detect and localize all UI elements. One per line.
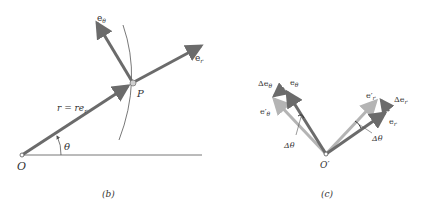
polar-unit-vectors-diagram: O P eθ er r = rer θ (b) Δeθ eθ e′θ Δθ e′…: [0, 0, 421, 209]
e-r-prime-label: e′r: [366, 91, 377, 101]
figure-b: O P eθ er r = rer θ (b): [17, 13, 204, 199]
angle-theta-label: θ: [64, 141, 70, 152]
e-theta-prime-label: e′θ: [260, 107, 271, 117]
point-p-label: P: [136, 88, 144, 99]
e-r-label: er: [195, 53, 204, 64]
e-theta-vector: [97, 23, 133, 83]
e-theta-label-c: eθ: [290, 78, 299, 88]
angle-theta-arc: [57, 136, 61, 155]
position-vector-label: r = rer: [57, 103, 88, 114]
origin-marker: [20, 153, 24, 157]
delta-theta-label-right: Δθ: [371, 134, 383, 143]
e-r-label-c: er: [389, 117, 398, 127]
delta-e-r-label: Δer: [394, 95, 409, 105]
delta-e-theta-vector: [274, 88, 284, 96]
position-vector: [22, 86, 128, 155]
point-p-marker: [130, 80, 136, 86]
caption-b: (b): [102, 189, 115, 199]
caption-c: (c): [321, 189, 334, 199]
e-theta-prime-vector: [274, 99, 326, 154]
e-r-vector: [134, 46, 201, 82]
origin-prime-label: O′: [320, 160, 329, 170]
origin-label: O: [17, 160, 26, 173]
delta-e-theta-label: Δeθ: [258, 79, 273, 89]
figure-c: Δeθ eθ e′θ Δθ e′r Δer er Δθ O′ (c): [258, 78, 409, 199]
delta-theta-label-left: Δθ: [283, 141, 295, 150]
e-r-prime-vector: [326, 101, 376, 154]
e-theta-label: eθ: [97, 13, 106, 24]
origin-prime-marker: [324, 152, 328, 156]
delta-e-r-vector: [381, 100, 389, 111]
